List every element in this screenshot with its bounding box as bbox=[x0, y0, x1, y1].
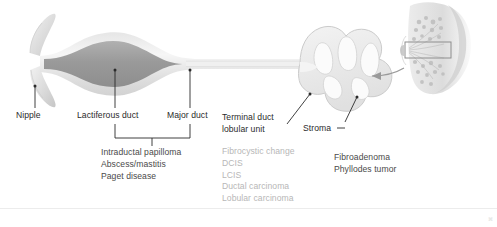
lesion-list-stroma: Fibroadenoma Phyllodes tumor bbox=[334, 152, 396, 176]
lesion-item: Ductal carcinoma bbox=[222, 181, 295, 193]
footer-divider bbox=[0, 208, 497, 209]
lesion-item: Paget disease bbox=[101, 171, 181, 183]
label-nipple: Nipple bbox=[16, 110, 41, 121]
lesion-item: Intraductal papilloma bbox=[101, 147, 181, 159]
duct-lumen bbox=[186, 61, 302, 66]
breast-cross-section-inset bbox=[400, 2, 471, 94]
figure-canvas: Nipple Lactiferous duct Major duct Termi… bbox=[0, 0, 497, 227]
label-lactiferous-duct: Lactiferous duct bbox=[77, 110, 138, 121]
lesion-list-tdlu: Fibrocystic change DCIS LCIS Ductal carc… bbox=[222, 146, 295, 205]
nipple-upper-lobe bbox=[30, 14, 56, 56]
lesion-item: Phyllodes tumor bbox=[334, 164, 396, 176]
label-stroma: Stroma bbox=[303, 123, 331, 134]
lesion-item: Lobular carcinoma bbox=[222, 193, 295, 205]
lesion-item: Abscess/mastitis bbox=[101, 159, 181, 171]
lesion-item: Fibroadenoma bbox=[334, 152, 396, 164]
lesion-list-duct: Intraductal papilloma Abscess/mastitis P… bbox=[101, 147, 181, 182]
lesion-item: Fibrocystic change bbox=[222, 146, 295, 158]
terminal-duct-lobular-unit bbox=[299, 26, 392, 111]
corner-mark: ⌘ bbox=[488, 216, 493, 222]
lesion-item: LCIS bbox=[222, 170, 295, 182]
label-terminal-duct-line2: lobular unit bbox=[222, 124, 265, 135]
lesion-item: DCIS bbox=[222, 158, 295, 170]
label-terminal-duct-line1: Terminal duct bbox=[222, 112, 274, 123]
label-major-duct: Major duct bbox=[167, 110, 208, 121]
